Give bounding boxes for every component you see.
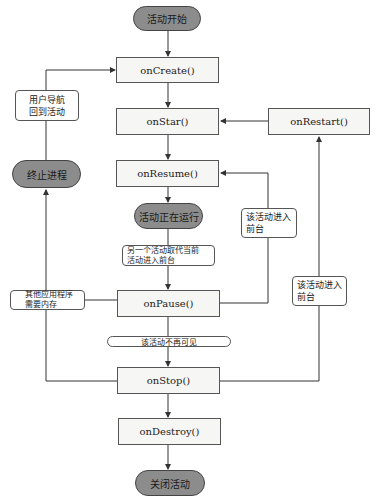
on-destroy-box: onDestroy() bbox=[118, 418, 221, 445]
on-restart-box: onRestart() bbox=[268, 108, 370, 135]
on-pause-box: onPause() bbox=[117, 290, 220, 317]
on-stop-box: onStop() bbox=[117, 367, 220, 394]
on-create-box: onCreate() bbox=[116, 57, 219, 83]
note-to-foreground-resume: 该活动进入 前台 bbox=[241, 208, 297, 238]
shutdown-terminal: 关闭活动 bbox=[135, 470, 205, 496]
note-other-apps-need-memory: 其他应用程序 需要内存 bbox=[10, 290, 85, 310]
note-to-foreground-restart: 该活动进入 前台 bbox=[292, 276, 347, 306]
on-resume-box: onResume() bbox=[116, 160, 219, 187]
note-user-navigates-back: 用户导航 回到活动 bbox=[15, 90, 79, 121]
start-terminal: 活动开始 bbox=[133, 6, 201, 31]
on-start-box: onStar() bbox=[116, 108, 219, 135]
note-other-activity-foreground: 另一个活动取代当前 活动进入前台 bbox=[122, 245, 215, 266]
running-terminal: 活动正在运行 bbox=[134, 203, 203, 229]
note-activity-not-visible: 该活动不再可见 bbox=[107, 336, 231, 347]
activity-lifecycle-diagram: 活动开始 活动正在运行 终止进程 关闭活动 onCreate() onStar(… bbox=[0, 0, 375, 503]
kill-process-terminal: 终止进程 bbox=[12, 160, 81, 188]
